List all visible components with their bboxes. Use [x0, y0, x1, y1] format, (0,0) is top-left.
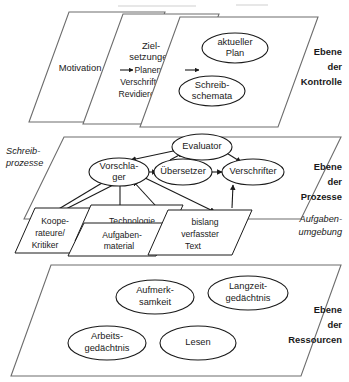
plane-motivation-label: Motivation [59, 62, 102, 73]
side-label-schreibprozesse: Schreib- prozesse [5, 146, 43, 168]
node-arbeitsgedaechtnis-line1: Arbeits- [91, 331, 123, 341]
node-schreibschemata-line2: schemata [192, 91, 233, 101]
env-bislang-line2: verfasster [181, 229, 219, 239]
node-aktueller-plan-line2: Plan [226, 48, 245, 58]
node-aktueller-plan-line1: aktueller [217, 37, 252, 47]
node-aufmerksamkeit[interactable]: Aufmerk- samkeit [116, 280, 194, 314]
level-label-prozesse-line2: der [327, 176, 342, 187]
node-verschrifter-label: Verschrifter [229, 166, 276, 176]
level-label-kontrolle-line3: Kontrolle [301, 76, 342, 87]
zielsetzungen-item-planen: Planen [135, 65, 162, 75]
diagram-root: Motivation Ziel- setzungen Planen Versch… [0, 0, 349, 382]
side-label-aufgabenumgebung: Aufgaben- umgebung [299, 214, 343, 237]
node-uebersetzer[interactable]: Übersetzer [154, 159, 212, 185]
env-kooperateure-line3: Kritiker [32, 240, 59, 250]
node-langzeitgedaechtnis-line1: Langzeit- [229, 281, 267, 291]
env-kooperateure-line2: rateure/ [35, 228, 65, 238]
node-lesen[interactable]: Lesen [160, 326, 236, 360]
side-label-schreibprozesse-line1: Schreib- [6, 146, 40, 156]
node-verschrifter[interactable]: Verschrifter [222, 159, 284, 185]
task-environment: Koope- rateure/ Kritiker Technologie Auf… [15, 205, 252, 256]
node-uebersetzer-label: Übersetzer [160, 166, 205, 176]
cropped-top-edge-remnant [118, 5, 268, 6]
plane-zielsetzungen-label-line1: Ziel- [142, 40, 160, 51]
node-arbeitsgedaechtnis[interactable]: Arbeits- gedächtnis [68, 326, 146, 360]
level-label-kontrolle: Ebene der Kontrolle [301, 46, 343, 87]
env-bislang-line3: Text [185, 241, 201, 251]
level-label-kontrolle-line1: Ebene [314, 46, 342, 57]
env-bislang-line1: bislang [191, 217, 218, 227]
node-vorschlager-line1: Vorschla- [100, 161, 139, 171]
node-aufmerksamkeit-line1: Aufmerk- [136, 285, 174, 295]
plane-ressourcen[interactable] [11, 265, 341, 376]
level-label-ressourcen-line1: Ebene [314, 304, 342, 315]
node-arbeitsgedaechtnis-line2: gedächtnis [85, 343, 130, 353]
node-aufmerksamkeit-line2: samkeit [139, 297, 171, 307]
level-kontrolle: Motivation Ziel- setzungen Planen Versch… [29, 12, 342, 127]
level-label-prozesse-line3: Prozesse [301, 191, 342, 202]
env-aufgabenmaterial-line2: material [104, 241, 135, 251]
level-label-kontrolle-line2: der [327, 61, 342, 72]
node-schreibschemata[interactable]: Schreib- schemata [179, 76, 245, 106]
env-kooperateure-line1: Koope- [41, 216, 69, 226]
node-lesen-label: Lesen [185, 337, 210, 347]
node-aktueller-plan[interactable]: aktueller Plan [202, 33, 268, 63]
side-label-aufgabenumgebung-line2: umgebung [299, 227, 343, 237]
node-vorschlager-line2: ger [112, 172, 125, 182]
level-ressourcen: Aufmerk- samkeit Langzeit- gedächtnis Ar… [11, 265, 342, 376]
level-label-ressourcen-line2: der [327, 319, 342, 330]
node-evaluator[interactable]: Evaluator [172, 134, 232, 160]
side-label-aufgabenumgebung-line1: Aufgaben- [299, 214, 342, 224]
node-evaluator-label: Evaluator [182, 141, 221, 151]
node-vorschlager[interactable]: Vorschla- ger [89, 158, 149, 186]
node-schreibschemata-line1: Schreib- [195, 80, 230, 90]
level-prozesse: Schreib- prozesse [5, 134, 343, 256]
writing-process-level-model-diagram: Motivation Ziel- setzungen Planen Versch… [0, 0, 349, 382]
level-label-prozesse-line1: Ebene [314, 161, 342, 172]
env-aufgabenmaterial-line1: Aufgaben- [102, 230, 142, 240]
side-label-schreibprozesse-line2: prozesse [5, 158, 43, 168]
node-langzeitgedaechtnis[interactable]: Langzeit- gedächtnis [208, 276, 288, 310]
level-label-ressourcen-line3: Ressourcen [288, 334, 342, 345]
node-langzeitgedaechtnis-line2: gedächtnis [226, 293, 271, 303]
